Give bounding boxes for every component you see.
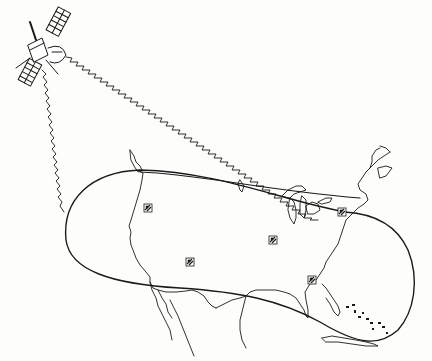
- ground-station-icon: [269, 236, 277, 244]
- diagram-canvas: [0, 0, 432, 361]
- ground-station-icon: [338, 208, 346, 216]
- satellite-icon: [16, 7, 71, 86]
- ground-station-icon: [186, 258, 194, 266]
- satellite-coverage-diagram: [0, 0, 432, 361]
- ground-stations: [144, 204, 346, 284]
- coverage-footprint: [66, 170, 415, 341]
- ground-station-icon: [308, 276, 316, 284]
- bahamas-islands: [346, 304, 388, 334]
- beam-west: [42, 70, 64, 212]
- us-map-outline: [129, 146, 392, 356]
- ground-station-icon: [144, 204, 152, 212]
